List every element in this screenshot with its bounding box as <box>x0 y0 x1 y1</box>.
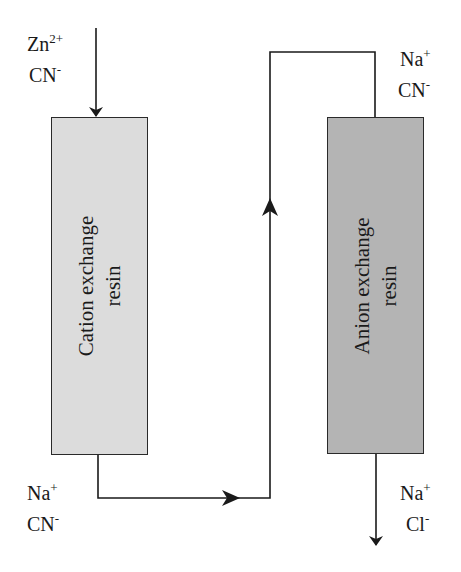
ion-cyanide: CN- <box>27 60 63 91</box>
anion-label-line2: resin <box>376 217 403 354</box>
ion-sodium: Na+ <box>398 44 431 75</box>
cation-label-line2: resin <box>100 216 127 357</box>
cation-label-line1: Cation exchange <box>73 216 100 357</box>
cation-exchange-column: Cation exchange resin <box>51 117 148 455</box>
intermediate-top-ions: Na+ CN- <box>398 44 431 106</box>
anion-label-line1: Anion exchange <box>349 217 376 354</box>
ion-sodium: Na+ <box>27 478 59 509</box>
ion-chloride: Cl- <box>400 509 431 540</box>
ion-cyanide: CN- <box>398 75 431 106</box>
ion-exchange-diagram: Cation exchange resin Anion exchange res… <box>0 0 461 572</box>
ion-cyanide: CN- <box>27 509 59 540</box>
cation-column-label: Cation exchange resin <box>73 216 127 357</box>
anion-exchange-column: Anion exchange resin <box>327 117 424 454</box>
anion-column-label: Anion exchange resin <box>349 217 403 354</box>
ion-zinc: Zn2+ <box>27 29 63 60</box>
intermediate-bottom-ions: Na+ CN- <box>27 478 59 540</box>
ion-sodium: Na+ <box>400 478 431 509</box>
outlet-ions: Na+ Cl- <box>400 478 431 540</box>
inlet-ions: Zn2+ CN- <box>27 29 63 91</box>
